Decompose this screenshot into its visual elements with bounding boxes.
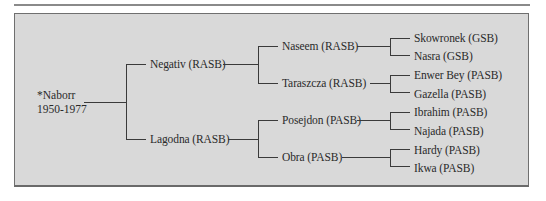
gen3-hardy: Hardy (PASB) <box>414 144 480 157</box>
gen3-najada: Najada (PASB) <box>414 125 484 138</box>
bracket-gen1 <box>126 64 127 140</box>
gen2-posejdon: Posejdon (PASB) <box>282 114 361 127</box>
connector-enwer <box>390 75 410 76</box>
connector-obra-out <box>342 157 390 158</box>
connector-negativ-out <box>223 64 258 65</box>
connector-hardy <box>390 149 410 150</box>
connector-lagodna-out <box>228 139 258 140</box>
root-years: 1950-1977 <box>37 102 87 116</box>
bracket-obra <box>390 149 391 167</box>
gen2-obra: Obra (PASB) <box>282 151 342 164</box>
gen2-naseem: Naseem (RASB) <box>282 40 358 53</box>
gen3-nasra: Nasra (GSB) <box>414 50 473 63</box>
connector-taraszcza <box>258 83 278 84</box>
connector-negativ <box>126 64 146 65</box>
connector-naseem <box>258 46 278 47</box>
connector-obra <box>258 157 278 158</box>
connector-posejdon-out <box>357 120 390 121</box>
connector-gazella <box>390 92 410 93</box>
bracket-taraszcza <box>390 75 391 93</box>
connector-taraszcza-out <box>370 83 390 84</box>
root-horse: *Naborr 1950-1977 <box>37 88 87 116</box>
connector-lagodna <box>126 139 146 140</box>
gen3-enwer-bey: Enwer Bey (PASB) <box>414 69 502 82</box>
connector-ikwa <box>390 166 410 167</box>
connector-posejdon <box>258 120 278 121</box>
connector-naseem-out <box>357 46 390 47</box>
top-rule <box>14 4 530 6</box>
bracket-lagodna <box>258 120 259 158</box>
connector-skowronek <box>390 38 410 39</box>
connector-ibrahim <box>390 112 410 113</box>
bracket-negativ <box>258 46 259 84</box>
bracket-naseem <box>390 38 391 56</box>
gen3-gazella: Gazella (PASB) <box>414 88 486 101</box>
connector-nasra <box>390 55 410 56</box>
root-name: *Naborr <box>37 88 87 102</box>
connector-najada <box>390 129 410 130</box>
gen1-sire: Negativ (RASB) <box>150 58 226 71</box>
gen2-taraszcza: Taraszcza (RASB) <box>282 77 366 90</box>
gen3-skowronek: Skowronek (GSB) <box>414 32 498 45</box>
gen3-ibrahim: Ibrahim (PASB) <box>414 106 487 119</box>
gen1-dam: Lagodna (RASB) <box>150 133 229 146</box>
bracket-posejdon <box>390 112 391 130</box>
gen3-ikwa: Ikwa (PASB) <box>414 162 474 175</box>
connector-root <box>84 102 126 103</box>
